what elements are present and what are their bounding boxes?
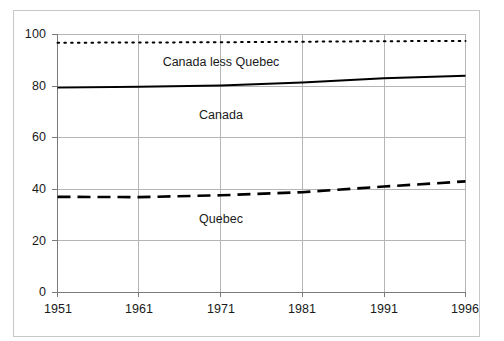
y-tick-label-60: 60 <box>10 130 46 144</box>
chart-plot-area <box>0 0 504 341</box>
series-annotation-canada: Canada <box>181 108 261 122</box>
x-tick-label-1961: 1961 <box>109 302 169 316</box>
x-tick-label-1981: 1981 <box>272 302 332 316</box>
x-tick-label-1951: 1951 <box>28 302 88 316</box>
vertical-gridlines <box>139 34 466 292</box>
series-annotation-quebec: Quebec <box>181 212 261 226</box>
y-tick-label-20: 20 <box>10 234 46 248</box>
series-annotation-canada-less-quebec: Canada less Quebec <box>141 55 301 69</box>
y-axis-ticks <box>52 35 57 293</box>
y-tick-label-100: 100 <box>10 27 46 41</box>
x-tick-label-1971: 1971 <box>191 302 251 316</box>
line-chart: 100 80 60 40 20 0 1951 1961 1971 1981 19… <box>0 0 504 341</box>
series-line-canada-less-quebec <box>58 41 466 43</box>
y-tick-label-80: 80 <box>10 79 46 93</box>
x-tick-label-1996: 1996 <box>435 302 495 316</box>
y-tick-label-0: 0 <box>10 285 46 299</box>
y-tick-label-40: 40 <box>10 182 46 196</box>
x-tick-label-1991: 1991 <box>354 302 414 316</box>
